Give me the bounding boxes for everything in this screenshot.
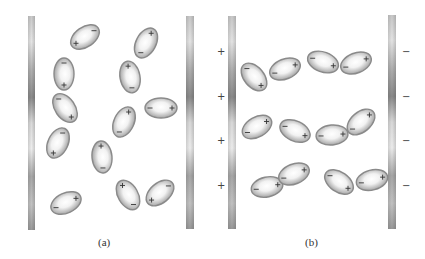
dipole-molecule bbox=[238, 110, 276, 143]
dipole-molecule bbox=[111, 176, 144, 214]
dipole-molecule bbox=[337, 48, 374, 79]
dielectric-diagram bbox=[0, 0, 425, 259]
plate-minus-sign: − bbox=[402, 92, 410, 102]
dipole-molecule bbox=[320, 165, 358, 200]
plate-plus-sign: + bbox=[217, 92, 225, 102]
dipole-molecule bbox=[66, 20, 104, 55]
dipole-molecule bbox=[47, 187, 84, 219]
dipole-molecule bbox=[354, 166, 390, 194]
plate-minus-sign: − bbox=[402, 181, 410, 191]
plate-plus-sign: + bbox=[217, 47, 225, 57]
dipole-molecule bbox=[91, 140, 114, 174]
dipole-molecule bbox=[117, 60, 142, 95]
dipole-molecule bbox=[145, 98, 177, 118]
plate-minus-sign: − bbox=[402, 136, 410, 146]
dipole-molecule bbox=[54, 58, 74, 90]
plate-plus-sign: + bbox=[217, 136, 225, 146]
dipole-molecule bbox=[276, 115, 313, 147]
dipole-molecule bbox=[315, 124, 349, 147]
plate-plus-sign: + bbox=[217, 181, 225, 191]
panel-caption-a: (a) bbox=[98, 236, 110, 248]
dipole-molecule bbox=[130, 24, 163, 62]
dipole-molecule bbox=[266, 54, 303, 85]
dipole-molecule bbox=[42, 124, 74, 161]
panel-caption-b: (b) bbox=[305, 236, 318, 248]
plate-minus-sign: − bbox=[402, 47, 410, 57]
dipole-molecule bbox=[305, 47, 342, 77]
dipole-molecule bbox=[108, 103, 140, 140]
dipole-molecule bbox=[236, 58, 272, 95]
dipole-molecule bbox=[48, 89, 83, 127]
dipole-molecule bbox=[141, 175, 178, 211]
